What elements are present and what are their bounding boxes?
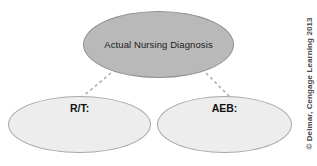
node-actual-nursing-diagnosis[interactable]: Actual Nursing Diagnosis bbox=[83, 11, 234, 78]
diagram-canvas: Actual Nursing Diagnosis R/T: AEB: © Del… bbox=[0, 0, 317, 166]
connector-top-to-aeb bbox=[206, 73, 231, 98]
copyright-text: © Delmar, Cengage Learning 2013 bbox=[305, 17, 314, 149]
node-label: R/T: bbox=[70, 102, 89, 114]
node-label: AEB: bbox=[212, 102, 238, 114]
node-as-evidenced-by[interactable]: AEB: bbox=[157, 96, 292, 153]
connector-top-to-rt bbox=[81, 73, 111, 98]
node-label: Actual Nursing Diagnosis bbox=[104, 39, 213, 50]
node-related-to[interactable]: R/T: bbox=[8, 96, 151, 153]
copyright-credit: © Delmar, Cengage Learning 2013 bbox=[302, 12, 316, 154]
